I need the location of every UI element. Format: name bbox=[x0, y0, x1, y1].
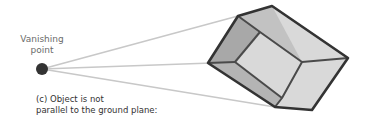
caption-line2: parallel to the ground plane: bbox=[36, 105, 157, 116]
caption-line1: (c) Object is not bbox=[36, 94, 157, 105]
vanishing-point-dot bbox=[36, 63, 48, 75]
vanishing-point-label-line1: Vanishing bbox=[16, 34, 68, 45]
figure-caption: (c) Object is not parallel to the ground… bbox=[36, 94, 157, 116]
vanishing-point-label: Vanishing point bbox=[16, 34, 68, 56]
cube bbox=[208, 6, 348, 110]
vanishing-point-label-line2: point bbox=[16, 45, 68, 56]
